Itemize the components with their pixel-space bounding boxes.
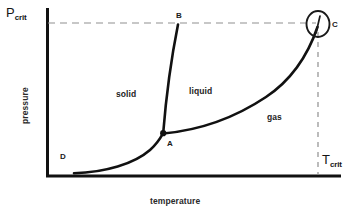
region-liquid-label: liquid xyxy=(189,86,212,96)
critical-temperature-subscript: crit xyxy=(330,160,342,169)
fusion-curve xyxy=(163,25,178,134)
critical-temperature-symbol: T xyxy=(322,152,330,167)
critical-pressure-symbol: P xyxy=(6,5,15,20)
critical-pressure-label: Pcrit xyxy=(6,5,26,20)
critical-pressure-subscript: crit xyxy=(15,13,27,22)
critical-temperature-label: Tcrit xyxy=(322,152,342,167)
phase-diagram-figure: Pcrit Tcrit pressure temperature B A D C… xyxy=(0,0,356,220)
region-solid-label: solid xyxy=(116,89,136,99)
point-c-label: C xyxy=(332,20,338,29)
x-axis-title: temperature xyxy=(150,196,200,206)
point-d-label: D xyxy=(60,152,66,161)
triple-point-marker xyxy=(160,130,166,136)
y-axis-title: pressure xyxy=(20,87,30,124)
region-gas-label: gas xyxy=(267,112,282,122)
sublimation-curve xyxy=(74,134,163,174)
phase-diagram-canvas xyxy=(0,0,356,220)
point-a-label: A xyxy=(167,139,173,148)
critical-point-tick xyxy=(316,16,320,33)
point-b-label: B xyxy=(176,11,182,20)
vaporization-curve xyxy=(164,27,318,134)
